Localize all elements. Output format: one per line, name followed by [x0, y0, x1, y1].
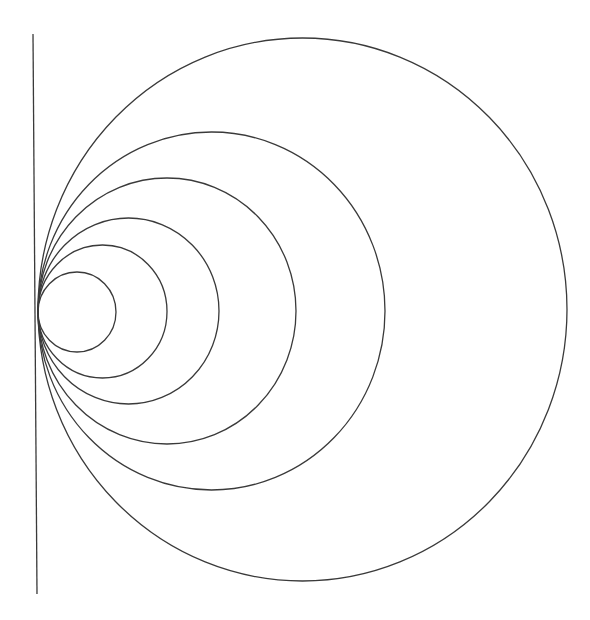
- circle-1: [38, 272, 116, 352]
- circle-3: [38, 218, 219, 404]
- tangent-line: [33, 34, 37, 594]
- tangent-circles-diagram: [0, 0, 590, 620]
- circle-group: [38, 38, 567, 581]
- circle-2: [38, 245, 167, 378]
- circle-6: [38, 38, 567, 581]
